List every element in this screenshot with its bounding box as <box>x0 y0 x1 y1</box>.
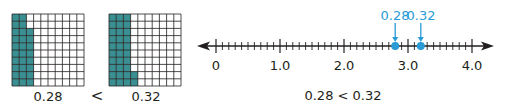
point-arrow-head-icon <box>418 37 424 42</box>
tick-label-1: 1.0 <box>270 59 291 72</box>
tick-label-0: 0 <box>212 59 220 72</box>
number-line-comparison: 0.28 < 0.32 <box>304 89 381 102</box>
point-arrow-head-icon <box>392 37 398 42</box>
point-dot-0 <box>391 42 399 50</box>
tick-label-4: 4.0 <box>462 59 483 72</box>
point-dot-1 <box>417 42 425 50</box>
tick-label-3: 3.0 <box>398 59 419 72</box>
point-label-0-32: 0.32 <box>407 9 436 22</box>
point-label-0-28: 0.28 <box>381 9 410 22</box>
tick-label-2: 2.0 <box>334 59 355 72</box>
decimal-comparison-diagram: 0.28 < 0.32 0 1.0 2.0 3.0 4.0 0.28 0.32 … <box>0 0 511 110</box>
